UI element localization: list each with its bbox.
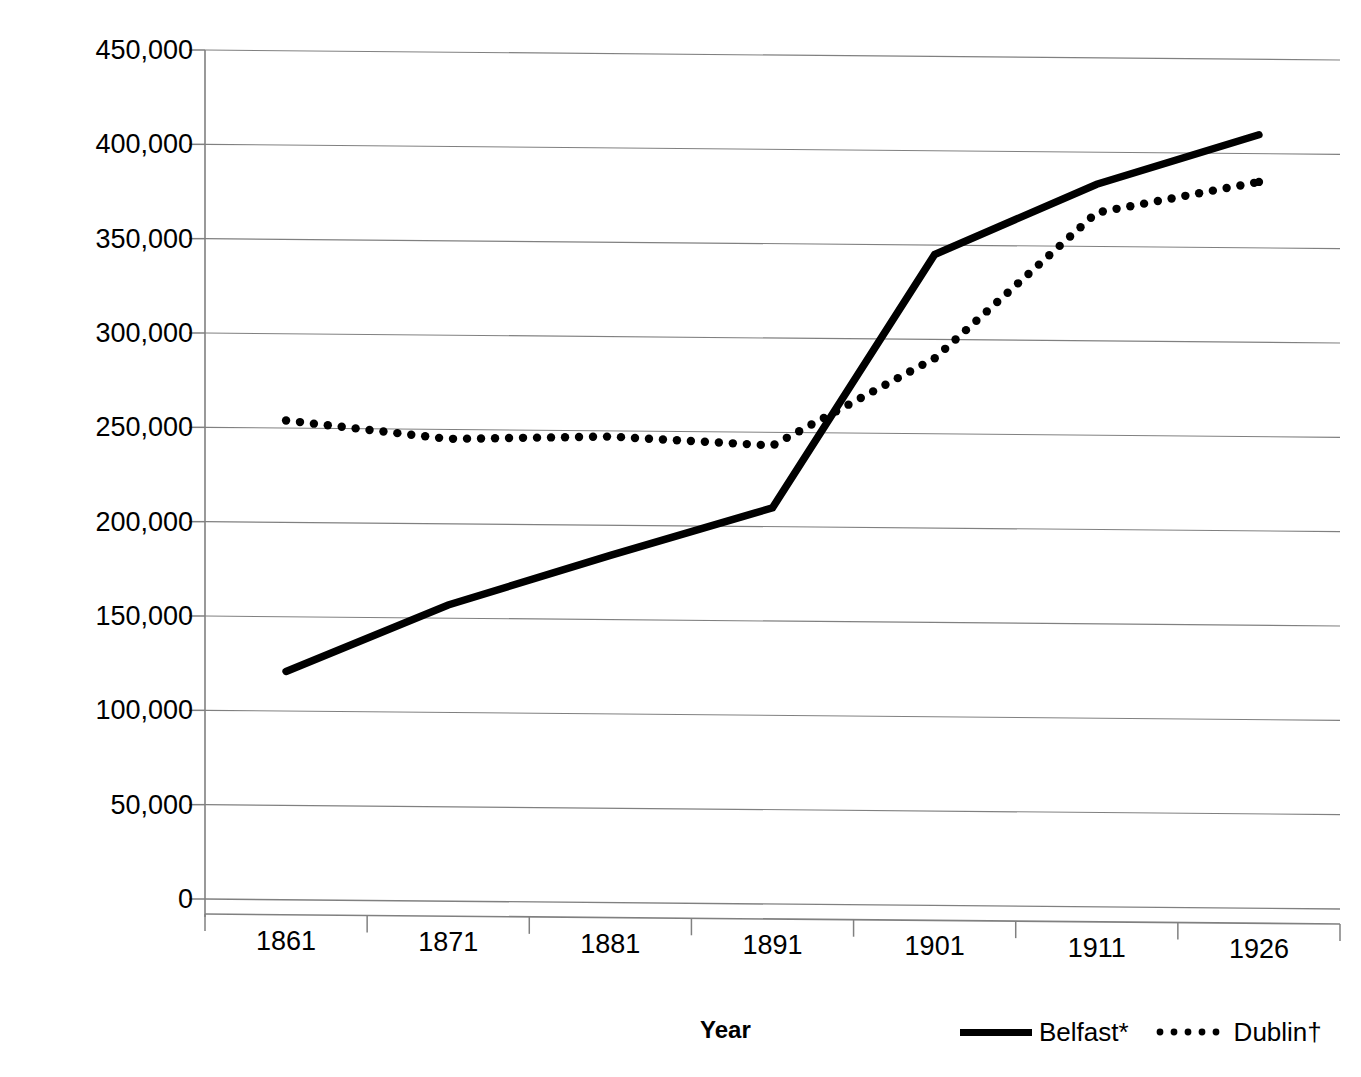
x-tick-label: 1926: [1229, 936, 1289, 963]
legend-label-dublin: Dublin†: [1234, 1019, 1322, 1045]
x-tick-label: 1871: [418, 929, 478, 956]
chart-legend: Belfast* Dublin†: [960, 1012, 1322, 1052]
x-tick-label: 1861: [256, 928, 316, 955]
legend-dotted-line-icon: [1155, 1028, 1227, 1036]
population-line-chart: Population 450,000400,000350,000300,0002…: [0, 0, 1361, 1077]
x-axis-title: Year: [700, 1016, 751, 1044]
x-tick-label: 1911: [1068, 935, 1126, 962]
legend-solid-line-icon: [960, 1029, 1032, 1036]
x-tick-label: 1891: [742, 932, 802, 959]
x-tick-label: 1881: [580, 931, 640, 958]
x-axis-tick-labels: 1861187118811891190119111926: [0, 0, 1361, 1000]
legend-item-dublin: Dublin†: [1155, 1019, 1322, 1045]
x-tick-label: 1901: [905, 933, 965, 960]
legend-item-belfast: Belfast*: [960, 1019, 1129, 1045]
legend-label-belfast: Belfast*: [1039, 1019, 1129, 1045]
